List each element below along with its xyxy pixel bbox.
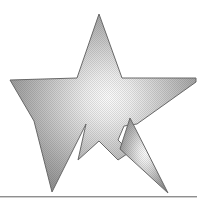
star-figure: Five-pointed star Grayscale shaded five-… (0, 0, 197, 205)
bottom-horizontal-rule-shadow (0, 197, 197, 198)
artwork-canvas: Five-pointed star Grayscale shaded five-… (0, 0, 197, 205)
